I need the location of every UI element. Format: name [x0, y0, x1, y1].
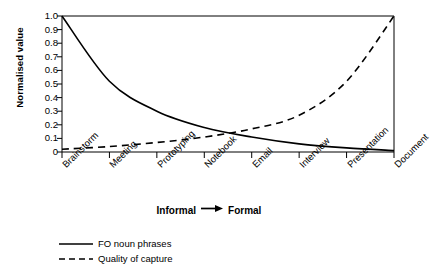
x-axis-title-right: Formal	[228, 205, 261, 216]
legend-label: FO noun phrases	[98, 238, 171, 249]
x-axis-title: Informal Formal	[0, 205, 418, 216]
legend-item: FO noun phrases	[59, 236, 172, 251]
series-line-fo-noun-phrases	[62, 16, 394, 151]
chart-legend: FO noun phrasesQuality of capture	[59, 236, 172, 266]
legend-line-sample	[59, 254, 93, 264]
legend-line-sample	[59, 239, 93, 249]
legend-item: Quality of capture	[59, 251, 172, 266]
y-axis-tick-marks	[57, 16, 62, 152]
arrow-right-icon	[201, 204, 223, 215]
x-axis-title-left: Informal	[157, 205, 196, 216]
legend-label: Quality of capture	[98, 253, 172, 264]
